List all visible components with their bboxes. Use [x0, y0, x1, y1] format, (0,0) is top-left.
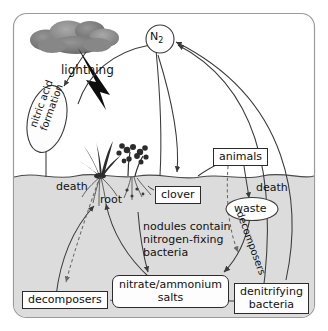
death-left-text: death	[56, 180, 88, 193]
nodules-line3: bacteria	[143, 247, 231, 260]
decomposers-node-label: decomposers	[22, 291, 108, 309]
root-text: root	[100, 193, 122, 206]
clover-text: clover	[161, 188, 195, 201]
denitrifying-node-label: denitrifying bacteria	[234, 283, 309, 314]
denitrifying-line1: denitrifying	[240, 286, 303, 299]
death-right-label: death	[256, 182, 288, 194]
denitrifying-line2: bacteria	[240, 299, 303, 312]
clover-node-label: clover	[155, 186, 201, 204]
animals-text: animals	[219, 150, 262, 163]
n2-subscript: 2	[158, 36, 163, 45]
n2-symbol: N	[150, 30, 158, 43]
nodules-note: nodules contain nitrogen-fixing bacteria	[143, 221, 231, 260]
death-left-label: death	[56, 181, 88, 193]
decomposers-text: decomposers	[28, 293, 102, 306]
nitrate-salts-line1: nitrate/ammonium	[119, 279, 222, 292]
n2-label: N2	[150, 31, 163, 46]
animals-node-label: animals	[213, 148, 268, 166]
death-right-text: death	[256, 181, 288, 194]
nitrate-salts-node-label: nitrate/ammonium salts	[112, 275, 229, 308]
root-label: root	[100, 194, 122, 206]
nitrate-salts-line2: salts	[119, 292, 222, 305]
nitrogen-cycle-diagram: N2 lightning nitric acid formation death…	[0, 0, 328, 331]
nodules-line2: nitrogen-fixing	[143, 234, 231, 247]
